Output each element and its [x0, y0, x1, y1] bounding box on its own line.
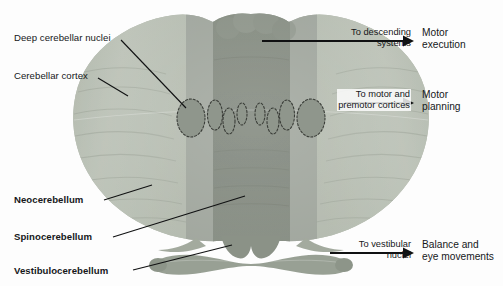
arrow-head-balance-eye-movements	[403, 248, 414, 259]
fastigial-nucleus-right	[255, 103, 265, 125]
globose-nucleus-left	[223, 108, 235, 134]
arrow-head-motor-execution	[403, 36, 414, 47]
fastigial-nucleus-left	[237, 103, 247, 125]
right-flocculus	[335, 258, 353, 272]
emboliform-nucleus-right	[280, 100, 295, 130]
globose-nucleus-right	[267, 108, 279, 134]
cerebellum-diagram: Deep cerebellar nucleiCerebellar cortexN…	[0, 0, 503, 286]
emboliform-nucleus-left	[208, 100, 223, 130]
cerebellum-anatomy-illustration	[0, 0, 503, 286]
dentate-nucleus-left	[177, 99, 205, 137]
dentate-nucleus-right	[297, 99, 325, 137]
